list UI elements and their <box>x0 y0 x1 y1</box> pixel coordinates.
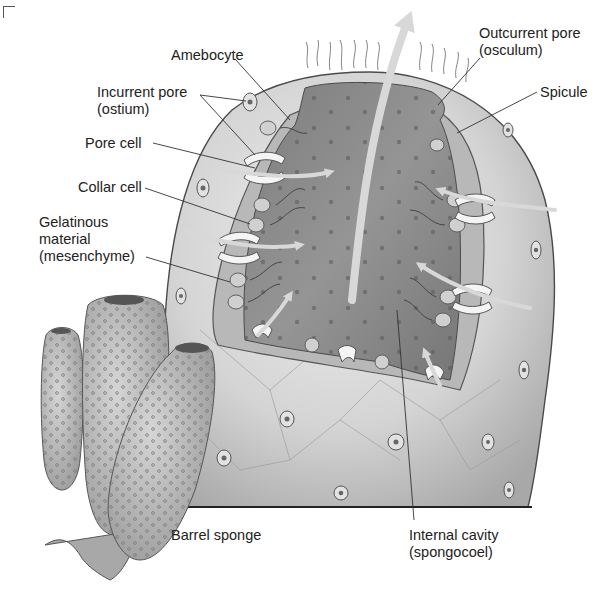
label-collar-cell: Collar cell <box>78 179 142 196</box>
label-amebocyte: Amebocyte <box>171 47 244 64</box>
label-pore-cell: Pore cell <box>85 135 141 152</box>
label-gelatinous-material: Gelatinous material (mesenchyme) <box>39 214 135 265</box>
sponge-diagram: Amebocyte Incurrent pore (ostium) Pore c… <box>0 0 607 589</box>
leader-incurrent-pore-outer <box>200 95 246 101</box>
label-incurrent-pore: Incurrent pore (ostium) <box>97 84 187 118</box>
label-spicule: Spicule <box>540 84 588 101</box>
label-barrel-sponge: Barrel sponge <box>171 527 261 544</box>
label-internal-cavity: Internal cavity (spongocoel) <box>409 527 498 561</box>
diagram-artwork <box>0 0 607 589</box>
label-outcurrent-pore: Outcurrent pore (osculum) <box>479 25 581 59</box>
